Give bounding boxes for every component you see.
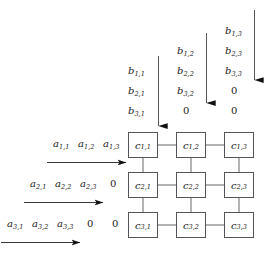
b-input-label: b3,1 (128, 106, 145, 116)
b-input-label: b1,3 (225, 26, 242, 36)
b-input-label: b1,2 (177, 46, 194, 56)
a-input-label: a2,1 (30, 179, 46, 189)
a-input-label: a1,2 (78, 139, 94, 149)
a-input-label: a1,1 (53, 139, 69, 149)
b-input-zero: 0 (183, 106, 189, 116)
b-input-label: b1,1 (128, 66, 145, 76)
a-input-label: a3,2 (32, 219, 48, 229)
a-input-zero: 0 (110, 179, 116, 189)
pe-cell-label: c3,3 (224, 212, 254, 238)
pe-cell-label: c1,2 (176, 132, 206, 158)
a-input-label: a3,3 (57, 219, 73, 229)
pe-cell-label: c2,1 (128, 172, 158, 198)
pe-cell-label: c2,2 (176, 172, 206, 198)
a-input-label: a1,3 (103, 139, 119, 149)
a-input-label: a2,2 (55, 179, 71, 189)
b-input-label: b3,2 (177, 86, 194, 96)
pe-cell-label: c1,3 (224, 132, 254, 158)
b-input-label: b2,1 (128, 86, 145, 96)
pe-cell-label: c3,2 (176, 212, 206, 238)
b-input-zero: 0 (231, 86, 237, 96)
a-input-label: a2,3 (80, 179, 96, 189)
a-input-label: a3,1 (7, 219, 23, 229)
a-input-zero: 0 (87, 219, 93, 229)
a-input-zero: 0 (112, 219, 118, 229)
diagram-canvas: b1,1 b2,1 b3,1 b1,2 b2,2 b3,2 0 b1,3 b2,… (0, 0, 274, 267)
b-input-label: b2,2 (177, 66, 194, 76)
b-input-zero: 0 (231, 106, 237, 116)
b-input-label: b3,3 (225, 66, 242, 76)
pe-cell-label: c1,1 (128, 132, 158, 158)
b-input-label: b2,3 (225, 46, 242, 56)
pe-cell-label: c3,1 (128, 212, 158, 238)
pe-cell-label: c2,3 (224, 172, 254, 198)
